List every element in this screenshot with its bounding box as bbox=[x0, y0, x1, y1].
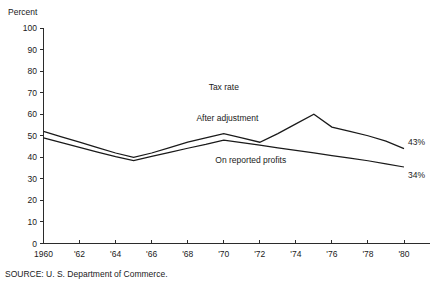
x-axis-tick-label: '74 bbox=[290, 249, 301, 259]
y-axis-tick-label: 80 bbox=[28, 66, 38, 76]
y-axis-tick-label: 40 bbox=[28, 152, 38, 162]
end-labels-group: 43%34% bbox=[408, 137, 425, 180]
y-axis-tick-label: 30 bbox=[28, 174, 38, 184]
series-end-label: 34% bbox=[408, 170, 425, 180]
y-axis-title: Percent bbox=[8, 7, 38, 17]
y-axis-tick-label: 10 bbox=[28, 217, 38, 227]
x-axis-tick-label: '66 bbox=[146, 249, 157, 259]
line-chart-plot: Percent 0102030405060708090100 1960'62'6… bbox=[0, 0, 445, 284]
y-axis-ticks-group: 0102030405060708090100 bbox=[23, 23, 44, 249]
x-axis-tick-label: '80 bbox=[398, 249, 409, 259]
y-axis-tick-label: 50 bbox=[28, 131, 38, 141]
source-note: SOURCE: U. S. Department of Commerce. bbox=[5, 269, 168, 279]
chart-annotation-tax-rate: Tax rate bbox=[209, 82, 240, 92]
x-axis-tick-label: '70 bbox=[218, 249, 229, 259]
chart-container: Percent 0102030405060708090100 1960'62'6… bbox=[0, 0, 445, 284]
y-axis-tick-label: 20 bbox=[28, 195, 38, 205]
y-axis-tick-label: 100 bbox=[23, 23, 37, 33]
x-axis-tick-label: '72 bbox=[254, 249, 265, 259]
y-axis-tick-label: 0 bbox=[32, 239, 37, 249]
series-end-label: 43% bbox=[408, 137, 425, 147]
y-axis-tick-label: 60 bbox=[28, 109, 38, 119]
x-axis-tick-label: '78 bbox=[362, 249, 373, 259]
x-axis-tick-label: 1960 bbox=[34, 249, 53, 259]
x-axis-tick-label: '64 bbox=[110, 249, 121, 259]
x-axis-tick-label: '62 bbox=[74, 249, 85, 259]
chart-annotation-on-reported-profits: On reported profits bbox=[215, 155, 286, 165]
x-axis-tick-label: '76 bbox=[326, 249, 337, 259]
x-axis-tick-label: '68 bbox=[182, 249, 193, 259]
y-axis-tick-label: 70 bbox=[28, 88, 38, 98]
y-axis-title-group: Percent bbox=[8, 7, 38, 17]
chart-annotation-after-adjustment: After adjustment bbox=[196, 113, 259, 123]
x-axis-ticks-group: 1960'62'64'66'68'70'72'74'76'78'80 bbox=[34, 240, 410, 259]
annotations-group: Tax rateAfter adjustmentOn reported prof… bbox=[196, 82, 286, 164]
y-axis-tick-label: 90 bbox=[28, 45, 38, 55]
